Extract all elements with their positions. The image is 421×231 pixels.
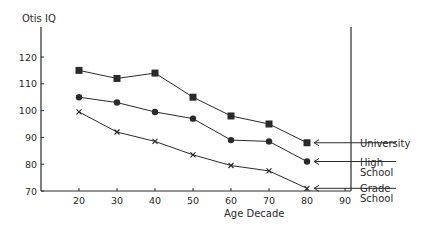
x-tick-label: 90 (339, 195, 351, 206)
square-marker (76, 67, 83, 74)
x-tick-label: 70 (263, 195, 275, 206)
circle-marker (76, 94, 82, 100)
y-tick-label: 110 (19, 78, 37, 89)
series-line-high-school (79, 97, 307, 161)
circle-marker (228, 137, 234, 143)
square-marker (304, 139, 311, 146)
square-marker (152, 70, 159, 77)
x-tick-label: 40 (149, 195, 161, 206)
legend-label: University (360, 138, 411, 149)
x-tick-label: 50 (187, 195, 199, 206)
x-tick-label: 60 (225, 195, 237, 206)
axes: 7080901001101202030405060708090 (19, 27, 351, 206)
square-marker (114, 75, 121, 82)
series-line-university (79, 70, 307, 142)
x-tick-label: 20 (73, 195, 85, 206)
x-axis-label: Age Decade (224, 208, 285, 219)
y-tick-label: 80 (25, 159, 37, 170)
chart: Otis IQ 7080901001101202030405060708090 … (0, 0, 421, 231)
x-tick-label: 30 (111, 195, 123, 206)
x-tick-label: 80 (301, 195, 313, 206)
legend-label: School (360, 193, 393, 204)
y-axis-label: Otis IQ (22, 13, 56, 24)
square-marker (190, 94, 197, 101)
y-tick-label: 70 (25, 186, 37, 197)
y-tick-label: 100 (19, 105, 37, 116)
circle-marker (190, 115, 196, 121)
circle-marker (266, 138, 272, 144)
legend: UniversityHighSchoolGradeSchool (314, 138, 411, 205)
circle-marker (152, 109, 158, 115)
square-marker (266, 121, 273, 128)
series-line-grade-school (79, 112, 307, 188)
legend-label: School (360, 167, 393, 178)
square-marker (228, 112, 235, 119)
y-tick-label: 90 (25, 132, 37, 143)
series-group (76, 67, 311, 191)
cross-marker (77, 109, 82, 114)
y-tick-label: 120 (19, 52, 37, 63)
circle-marker (114, 99, 120, 105)
circle-marker (304, 158, 310, 164)
